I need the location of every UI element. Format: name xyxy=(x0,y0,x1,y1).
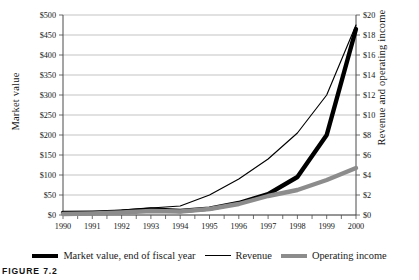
figure-caption: FIGURE 7.2 xyxy=(2,266,58,276)
x-axis-tick-label: 1996 xyxy=(231,222,247,231)
legend-label: Revenue xyxy=(236,250,272,261)
y-axis-left-tick-label: $350 xyxy=(40,71,56,80)
y-axis-left-tick-label: $300 xyxy=(40,91,56,100)
y-axis-right-tick-label: $16 xyxy=(363,51,375,60)
legend-item-market-value: Market value, end of fiscal year xyxy=(32,250,195,261)
y-axis-right-tick-label: $0 xyxy=(363,211,371,220)
y-axis-right-tick-label: $10 xyxy=(363,111,375,120)
y-axis-right-tick-label: $6 xyxy=(363,151,371,160)
y-axis-left-tick-label: $200 xyxy=(40,131,56,140)
figure-container: Market value Revenue and operating incom… xyxy=(0,0,419,280)
y-axis-left-tick-label: $500 xyxy=(40,11,56,20)
y-axis-right-tick-label: $8 xyxy=(363,131,371,140)
x-axis-tick-label: 1999 xyxy=(319,222,335,231)
thick-gray-line-icon xyxy=(281,254,307,258)
y-axis-left-tick-label: $50 xyxy=(44,191,56,200)
y-axis-right-tick-label: $18 xyxy=(363,31,375,40)
y-axis-right-tick-label: $20 xyxy=(363,11,375,20)
y-axis-left-tick-label: $450 xyxy=(40,31,56,40)
y-axis-left-tick-label: $100 xyxy=(40,171,56,180)
y-axis-right-tick-label: $4 xyxy=(363,171,371,180)
thick-black-line-icon xyxy=(32,254,58,258)
y-axis-right-tick-label: $14 xyxy=(363,71,375,80)
x-axis-tick-label: 1995 xyxy=(201,222,217,231)
chart-legend: Market value, end of fiscal year Revenue… xyxy=(0,250,419,261)
x-axis-tick-label: 1994 xyxy=(172,222,188,231)
y-axis-left-tick-label: $0 xyxy=(48,211,56,220)
x-axis-tick-label: 1991 xyxy=(84,222,100,231)
legend-item-revenue: Revenue xyxy=(205,250,272,261)
y-axis-left-tick-label: $150 xyxy=(40,151,56,160)
x-axis-tick-label: 1990 xyxy=(55,222,71,231)
x-axis-tick-label: 1998 xyxy=(289,222,305,231)
x-axis-tick-label: 1992 xyxy=(113,222,129,231)
thin-black-line-icon xyxy=(205,255,231,256)
legend-item-operating-income: Operating income xyxy=(281,250,387,261)
x-axis-tick-label: 2000 xyxy=(348,222,364,231)
x-axis-tick-label: 1993 xyxy=(143,222,159,231)
line-chart: $0$50$100$150$200$250$300$350$400$450$50… xyxy=(0,0,419,250)
y-axis-right-tick-label: $2 xyxy=(363,191,371,200)
y-axis-left-tick-label: $400 xyxy=(40,51,56,60)
y-axis-right-tick-label: $12 xyxy=(363,91,375,100)
legend-label: Market value, end of fiscal year xyxy=(63,250,195,261)
legend-label: Operating income xyxy=(312,250,387,261)
x-axis-tick-label: 1997 xyxy=(260,222,276,231)
y-axis-left-tick-label: $250 xyxy=(40,111,56,120)
